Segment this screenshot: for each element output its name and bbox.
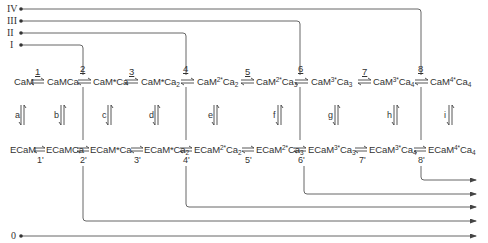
subscript: 2	[235, 81, 239, 88]
reaction-label-1: 1	[35, 67, 40, 77]
reaction-label-7-prime: 7'	[359, 155, 366, 165]
species-cam2-ca3: CaM2*Ca3	[256, 76, 297, 87]
subscript: 3	[349, 81, 353, 88]
species-ecam-star-ca: ECaM*Ca	[90, 144, 132, 155]
subscript: 2	[176, 81, 180, 88]
input-label-0: 0	[11, 231, 16, 241]
species-text: CaM	[373, 76, 393, 87]
species-text: ECaM	[308, 144, 334, 155]
species-text: ECaM*Ca	[144, 144, 186, 155]
reaction-label-8-prime: 8'	[418, 155, 425, 165]
species-ecam3-ca3: ECaM3*Ca3	[308, 144, 355, 155]
species-text: Ca	[226, 144, 238, 155]
subscript: 3	[352, 149, 356, 156]
species-text: CaM	[197, 76, 217, 87]
species-text: ECaM	[256, 144, 282, 155]
species-text: Ca	[401, 144, 413, 155]
species-text: ECaM	[428, 144, 454, 155]
species-text: CaM	[256, 76, 276, 87]
species-text: ECaM	[369, 144, 395, 155]
species-text: CaM*Ca	[141, 76, 176, 87]
species-ecam3-ca4: ECaM3*Ca4	[369, 144, 416, 155]
reaction-label-5-prime: 5'	[245, 155, 252, 165]
species-camca: CaMCa	[47, 76, 79, 87]
species-text: Ca	[288, 144, 300, 155]
reaction-label-6: 6	[298, 64, 303, 74]
species-cam: CaM	[14, 76, 34, 87]
species-ecam2-ca3: ECaM2*Ca3	[256, 144, 303, 155]
reaction-label-f: f	[273, 110, 276, 120]
reaction-label-i: i	[444, 110, 446, 120]
input-label-i: I	[10, 40, 13, 50]
reaction-label-h: h	[387, 110, 392, 120]
reaction-label-5: 5	[245, 67, 250, 77]
connection-lines	[0, 0, 488, 243]
species-cam3-ca3: CaM3*Ca3	[311, 76, 352, 87]
reaction-label-e: e	[208, 110, 213, 120]
subscript: 3	[294, 81, 298, 88]
subscript: 4	[468, 81, 472, 88]
species-text: CaM	[14, 76, 34, 87]
species-ecam4-ca4: ECaM4*Ca4	[428, 144, 475, 155]
reaction-label-4-prime: 4'	[183, 155, 190, 165]
species-text: Ca	[456, 76, 468, 87]
species-text: ECaMCa	[46, 144, 84, 155]
species-text: CaM*Ca	[93, 76, 128, 87]
reaction-label-4: 4	[183, 64, 188, 74]
species-cam2-ca2: CaM2*Ca2	[197, 76, 238, 87]
species-text: CaM	[430, 76, 450, 87]
species-cam-star-ca: CaM*Ca	[93, 76, 128, 87]
species-text: Ca	[340, 144, 352, 155]
reaction-label-c: c	[102, 110, 107, 120]
species-text: CaM	[311, 76, 331, 87]
reaction-label-2-prime: 2'	[80, 155, 87, 165]
species-cam3-ca4: CaM3*Ca4	[373, 76, 414, 87]
reaction-label-d: d	[149, 110, 154, 120]
reaction-label-a: a	[15, 110, 20, 120]
reaction-label-3-prime: 3'	[134, 155, 141, 165]
reaction-label-g: g	[328, 110, 333, 120]
species-text: ECaM	[10, 144, 36, 155]
species-ecam2-ca2: ECaM2*Ca2	[194, 144, 241, 155]
reaction-scheme-diagram: IV III II I 0 CaM CaMCa CaM*Ca CaM*Ca2 C…	[0, 0, 488, 243]
input-label-ii: II	[7, 28, 14, 38]
reaction-label-3: 3	[129, 67, 134, 77]
species-text: ECaM*Ca	[90, 144, 132, 155]
reaction-label-2: 2	[80, 64, 85, 74]
subscript: 4	[413, 149, 417, 156]
species-text: ECaM	[194, 144, 220, 155]
species-text: Ca	[399, 76, 411, 87]
reaction-label-b: b	[54, 110, 59, 120]
species-cam4-ca4: CaM4*Ca4	[430, 76, 471, 87]
reaction-label-8: 8	[418, 64, 423, 74]
input-label-iv: IV	[7, 4, 18, 14]
subscript: 2	[238, 149, 242, 156]
reaction-label-1-prime: 1'	[37, 155, 44, 165]
species-ecamca: ECaMCa	[46, 144, 84, 155]
species-text: Ca	[223, 76, 235, 87]
reaction-label-6-prime: 6'	[298, 155, 305, 165]
reaction-label-7: 7	[362, 67, 367, 77]
species-ecam-star-ca2: ECaM*Ca2	[144, 144, 189, 155]
subscript: 4	[472, 149, 476, 156]
species-cam-star-ca2: CaM*Ca2	[141, 76, 180, 87]
species-text: Ca	[282, 76, 294, 87]
species-text: CaMCa	[47, 76, 79, 87]
species-ecam: ECaM	[10, 144, 36, 155]
species-text: Ca	[337, 76, 349, 87]
species-text: Ca	[460, 144, 472, 155]
input-label-iii: III	[7, 16, 17, 26]
subscript: 4	[411, 81, 415, 88]
